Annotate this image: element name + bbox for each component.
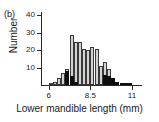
histogram-bar [74, 82, 78, 85]
plot-area [42, 12, 142, 85]
y-tick-mark [37, 50, 41, 51]
x-axis-spine [41, 85, 142, 86]
histogram-bar [128, 83, 132, 85]
x-tick-label: 8.5 [76, 90, 104, 101]
x-axis-label: Lower mandible length (mm) [0, 103, 159, 115]
histogram-bars [42, 12, 142, 85]
y-axis-label: Number [8, 6, 19, 66]
y-tick-mark [37, 15, 41, 16]
y-tick-label: 20 [19, 44, 35, 55]
x-tick-label: 6 [35, 90, 63, 101]
x-tick-label: 11 [118, 90, 146, 101]
y-tick-label: 10 [19, 62, 35, 73]
y-tick-mark [37, 33, 41, 34]
y-tick-label: 40 [19, 9, 35, 20]
y-tick-mark [37, 68, 41, 69]
figure-panel-b: (b) Number 10203040 68.511 Lower mandibl… [0, 0, 159, 122]
y-tick-label: 30 [19, 27, 35, 38]
